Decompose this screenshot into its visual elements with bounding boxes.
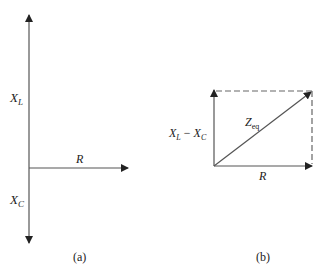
xl-label: XL: [9, 90, 23, 107]
figure-b: XL − XC Zeq R (b): [168, 90, 312, 264]
r-label-a: R: [75, 152, 84, 166]
caption-a: (a): [73, 250, 86, 264]
figure-a: XL R XC (a): [9, 15, 128, 264]
xc-label: XC: [9, 192, 25, 209]
phasor-diagram: XL R XC (a) XL − XC Zeq R (b): [0, 0, 324, 277]
zeq-arrow: [214, 92, 311, 166]
zeq-label: Zeq: [245, 115, 259, 131]
r-label-b: R: [258, 169, 267, 183]
caption-b: (b): [256, 250, 270, 264]
xl-minus-xc-label: XL − XC: [168, 126, 207, 142]
